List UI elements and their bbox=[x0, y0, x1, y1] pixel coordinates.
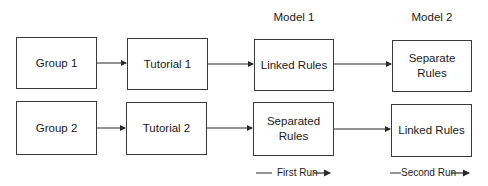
model-2-group-2-box: Linked Rules bbox=[391, 104, 472, 157]
model-1-group-2-box: Separated Rules bbox=[253, 102, 334, 156]
first-run-label: First Run bbox=[277, 167, 318, 178]
tutorial-2-box: Tutorial 2 bbox=[126, 102, 207, 155]
tutorial-1-box: Tutorial 1 bbox=[127, 38, 208, 90]
group-2-box: Group 2 bbox=[16, 101, 97, 155]
model-1-group-1-box: Linked Rules bbox=[254, 39, 334, 91]
group-1-box: Group 1 bbox=[16, 37, 97, 89]
second-run-label: Second Run bbox=[401, 167, 456, 178]
model-2-group-1-box: Separate Rules bbox=[392, 40, 472, 92]
connector-arrows bbox=[0, 0, 488, 186]
